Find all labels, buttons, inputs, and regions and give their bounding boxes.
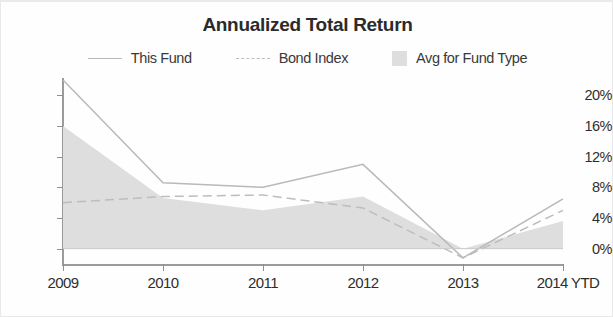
y-axis-tick-label: 8% — [556, 179, 612, 195]
legend-item-bond-index: Bond Index — [236, 50, 348, 66]
x-axis-tick-label: 2009 — [48, 274, 79, 291]
plot-svg — [63, 80, 563, 264]
plot-area — [63, 80, 563, 264]
x-axis-line — [62, 264, 564, 266]
legend-label-bond-index: Bond Index — [279, 50, 348, 66]
solid-line-key-icon — [88, 58, 122, 59]
legend-label-this-fund: This Fund — [131, 50, 192, 66]
x-axis-tick-mark — [63, 264, 64, 271]
x-axis-tick-mark — [463, 264, 464, 271]
legend-item-avg-fund-type: Avg for Fund Type — [392, 50, 527, 66]
dashed-line-key-icon — [236, 58, 270, 59]
series-area-avg-for-fund-type — [63, 126, 563, 249]
x-axis-tick-mark — [163, 264, 164, 271]
legend-item-this-fund: This Fund — [88, 50, 192, 66]
x-axis-tick-label: 2010 — [148, 274, 179, 291]
chart-title: Annualized Total Return — [1, 14, 613, 36]
x-axis-tick-label: 2011 — [248, 274, 278, 291]
x-axis-tick-label: 2014 YTD — [537, 274, 599, 291]
x-axis-tick-mark — [563, 264, 564, 271]
y-axis-tick-label: 16% — [556, 118, 612, 134]
x-axis-tick-label: 2012 — [348, 274, 379, 291]
gray-swatch-key-icon — [392, 51, 407, 66]
chart-legend: This Fund Bond Index Avg for Fund Type — [1, 50, 613, 66]
y-axis-tick-label: 4% — [556, 210, 612, 226]
legend-label-avg-fund-type: Avg for Fund Type — [416, 50, 527, 66]
annualized-total-return-chart: Annualized Total Return This Fund Bond I… — [0, 0, 613, 317]
x-axis-tick-mark — [363, 264, 364, 271]
y-axis-tick-label: 0% — [556, 241, 612, 257]
x-axis-tick-mark — [263, 264, 264, 271]
y-axis-tick-label: 12% — [556, 149, 612, 165]
y-axis-tick-label: 20% — [556, 87, 612, 103]
x-axis-tick-label: 2013 — [448, 274, 479, 291]
